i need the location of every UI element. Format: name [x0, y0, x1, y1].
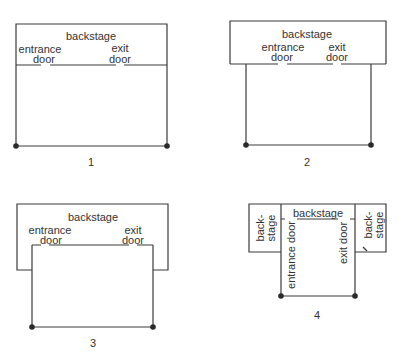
- diagram-2-exit-label-line2: door: [326, 51, 348, 63]
- diagram-1-backstage-label: backstage: [66, 30, 116, 42]
- diagram-3-corner-dot-left: [29, 324, 35, 330]
- diagram-3-entrance-label-line2: door: [40, 234, 62, 246]
- diagram-4-entrance-door-label: entrance door: [285, 221, 297, 289]
- diagram-1-corner-dot-right: [164, 143, 170, 149]
- diagram-4: backstage back- stage back- stage entran…: [249, 204, 386, 321]
- diagram-4-backstage-label: backstage: [293, 207, 343, 219]
- diagram-4-corner-dot-right: [352, 293, 358, 299]
- diagram-4-left-side-backstage-line2: stage: [265, 215, 277, 242]
- diagram-2-corner-dot-left: [243, 142, 249, 148]
- diagram-1-entrance-label-line2: door: [33, 53, 55, 65]
- diagram-1-corner-dot-left: [13, 143, 19, 149]
- diagram-1: backstage entrance door exit door 1: [13, 24, 170, 168]
- diagram-3-corner-dot-right: [150, 324, 156, 330]
- diagram-4-exit-door-label: exit door: [337, 222, 349, 265]
- stage-layouts-figure: backstage entrance door exit door 1 back…: [0, 0, 406, 356]
- diagram-2-entrance-label-line2: door: [271, 51, 293, 63]
- diagram-1-number: 1: [88, 156, 94, 168]
- diagram-1-exit-label-line2: door: [109, 53, 131, 65]
- diagram-4-number: 4: [314, 309, 320, 321]
- diagram-3-number: 3: [90, 337, 96, 349]
- diagram-4-corner-dot-left: [278, 293, 284, 299]
- diagram-2: backstage entrance door exit door 2: [230, 21, 386, 168]
- diagram-2-backstage-label: backstage: [282, 28, 332, 40]
- diagram-2-number: 2: [304, 156, 310, 168]
- diagram-2-stage-outline: [246, 64, 371, 145]
- diagram-3-backstage-label: backstage: [68, 211, 118, 223]
- diagram-3: backstage entrance door exit door 3: [17, 204, 168, 349]
- diagram-4-right-backstage-tick: [363, 247, 367, 251]
- diagram-4-right-side-backstage-line2: stage: [373, 212, 385, 239]
- diagram-3-exit-label-line2: door: [122, 234, 144, 246]
- diagram-2-corner-dot-right: [368, 142, 374, 148]
- diagram-3-stage-outline: [32, 245, 153, 327]
